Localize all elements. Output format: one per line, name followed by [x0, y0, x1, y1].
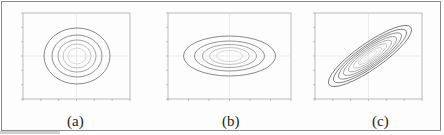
panel-a-plot: [21, 13, 130, 101]
panel-a-ticks: [21, 13, 130, 101]
panel-c-caption: (c): [372, 113, 389, 130]
panel-b-caption: (b): [222, 113, 240, 130]
panel-c-ticks: [313, 13, 422, 101]
panel-c-plot: [313, 13, 422, 101]
panel-a-caption: (a): [67, 113, 84, 130]
panel-b-ticks: [166, 13, 291, 101]
panel-b-plot: [166, 13, 291, 101]
